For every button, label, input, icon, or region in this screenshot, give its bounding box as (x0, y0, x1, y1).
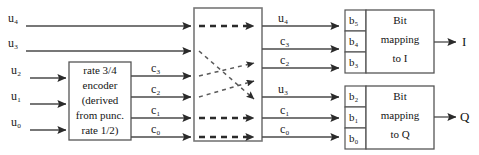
interleaver-box (194, 8, 262, 141)
interleaver-output-label-c2: c₂ (280, 54, 290, 66)
input-label-u4: u₄ (8, 12, 18, 24)
output-label-q: Q (460, 110, 469, 123)
input-label-u2: u₂ (11, 64, 21, 76)
encoder-text-line-3: (derived (69, 95, 131, 107)
encoder-output-label-c2: c₂ (151, 83, 161, 95)
interleaver-output-label-c1: c₁ (280, 104, 290, 116)
input-label-u0: u₀ (11, 116, 21, 128)
encoder-output-label-c3: c₃ (151, 62, 161, 74)
register-label-b5: b₅ (349, 15, 358, 26)
register-label-b0: b₀ (349, 133, 358, 144)
output-label-i: I (462, 35, 466, 48)
bit-mapping-i-line-3: to I (366, 53, 434, 65)
register-label-b4: b₄ (349, 36, 358, 47)
interleaver-output-label-u3: u₃ (278, 83, 288, 95)
interleaver-output-label-u4: u₄ (278, 12, 288, 24)
bit-mapping-i-line-1: Bit (366, 15, 434, 27)
interleaver-output-label-c3: c₃ (280, 35, 290, 47)
encoder-text-line-5: rate 1/2) (69, 125, 131, 137)
encoder-text-line-4: from punc. (67, 110, 133, 122)
encoder-output-label-c0: c₀ (151, 123, 161, 135)
bit-mapping-i-line-2: mapping (366, 34, 434, 46)
input-label-u1: u₁ (11, 90, 21, 102)
bit-mapping-q-line-2: mapping (366, 110, 434, 122)
register-label-b2: b₂ (349, 91, 358, 102)
encoder-text-line-1: rate 3/4 (69, 65, 131, 77)
register-label-b1: b₁ (349, 112, 358, 123)
encoder-bit-mapping-diagram: u₄ u₃ u₂ u₁ u₀ rate 3/4 encoder (derived… (0, 0, 479, 155)
input-label-u3: u₃ (8, 37, 18, 49)
encoder-output-label-c1: c₁ (151, 104, 161, 116)
interleaver-output-label-c0: c₀ (280, 123, 290, 135)
bit-mapping-q-line-3: to Q (366, 129, 434, 141)
register-label-b3: b₃ (349, 57, 358, 68)
encoder-text-line-2: encoder (69, 80, 131, 92)
bit-mapping-q-line-1: Bit (366, 91, 434, 103)
